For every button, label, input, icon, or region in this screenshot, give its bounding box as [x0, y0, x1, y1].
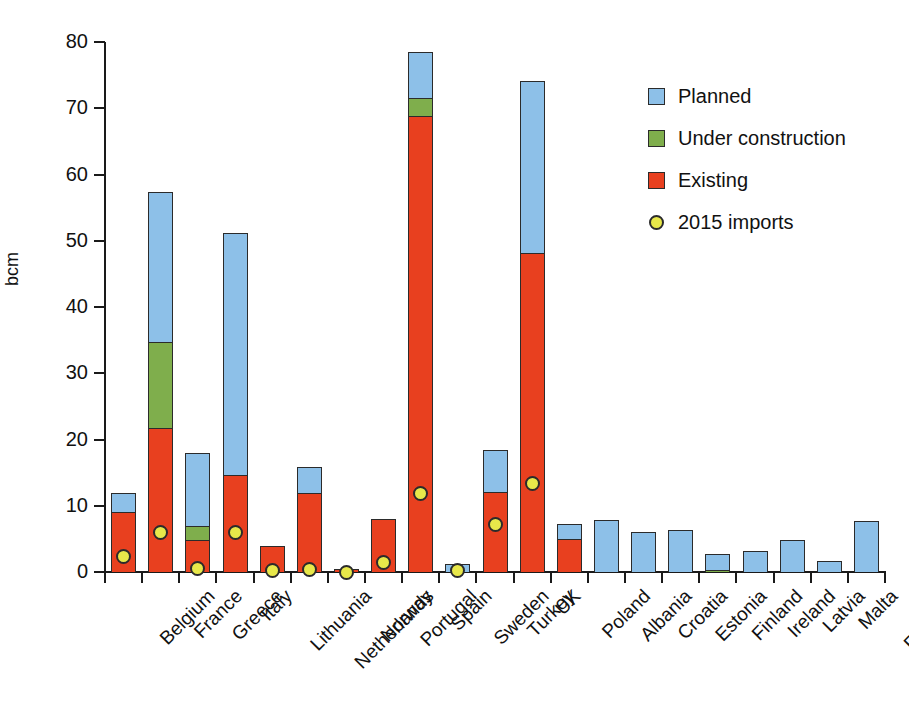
x-tick	[735, 573, 737, 583]
y-tick-label: 60	[0, 163, 88, 185]
bar-group[interactable]	[260, 42, 285, 572]
bar-segment[interactable]	[668, 530, 693, 572]
bar-group[interactable]	[371, 42, 396, 572]
x-tick	[327, 573, 329, 583]
bar-segment[interactable]	[705, 554, 730, 570]
import-marker[interactable]	[302, 562, 317, 577]
bar-segment[interactable]	[185, 453, 210, 526]
x-tick	[253, 573, 255, 583]
bar-segment[interactable]	[297, 493, 322, 572]
x-tick	[364, 573, 366, 583]
bar-segment[interactable]	[148, 192, 173, 342]
bar-segment[interactable]	[817, 561, 842, 572]
bar-group[interactable]	[334, 42, 359, 572]
legend-item[interactable]: 2015 imports	[648, 204, 846, 240]
bar-segment[interactable]	[483, 450, 508, 492]
bar-group[interactable]	[854, 42, 879, 572]
x-tick	[104, 573, 106, 583]
bar-group[interactable]	[483, 42, 508, 572]
bar-segment[interactable]	[148, 342, 173, 428]
x-tick	[810, 573, 812, 583]
y-tick-label: 20	[0, 428, 88, 450]
import-marker[interactable]	[488, 517, 503, 532]
bar-segment[interactable]	[111, 493, 136, 513]
legend-swatch-icon	[648, 172, 665, 189]
x-tick	[290, 573, 292, 583]
bar-group[interactable]	[111, 42, 136, 572]
bar-group[interactable]	[520, 42, 545, 572]
bar-segment[interactable]	[408, 98, 433, 116]
bar-segment[interactable]	[223, 475, 248, 572]
x-tick	[550, 573, 552, 583]
x-tick	[661, 573, 663, 583]
bar-segment[interactable]	[594, 520, 619, 572]
legend-label: Under construction	[678, 127, 846, 150]
y-tick-40	[94, 306, 105, 308]
bar-segment[interactable]	[223, 233, 248, 475]
x-tick	[884, 573, 886, 583]
y-tick-70	[94, 107, 105, 109]
legend-label: Existing	[678, 169, 748, 192]
y-tick-label: 40	[0, 295, 88, 317]
bar-segment[interactable]	[185, 526, 210, 539]
y-tick-label: 0	[0, 560, 88, 582]
bar-segment[interactable]	[705, 570, 730, 572]
bar-segment[interactable]	[408, 52, 433, 98]
x-tick	[475, 573, 477, 583]
bar-segment[interactable]	[631, 532, 656, 572]
legend-swatch-icon	[648, 130, 665, 147]
bar-group[interactable]	[445, 42, 470, 572]
legend-label: 2015 imports	[678, 211, 794, 234]
legend-item[interactable]: Under construction	[648, 120, 846, 156]
bar-segment[interactable]	[148, 428, 173, 572]
import-marker[interactable]	[450, 563, 465, 578]
bar-segment[interactable]	[743, 551, 768, 572]
bar-segment[interactable]	[780, 540, 805, 572]
import-marker[interactable]	[265, 563, 280, 578]
bar-segment[interactable]	[854, 521, 879, 572]
x-tick	[401, 573, 403, 583]
bar-segment[interactable]	[520, 253, 545, 572]
y-tick-label: 30	[0, 361, 88, 383]
x-axis-label-romania: Romania	[901, 586, 909, 653]
x-tick	[773, 573, 775, 583]
import-marker[interactable]	[339, 565, 354, 580]
x-tick	[438, 573, 440, 583]
y-axis-title: bcm	[2, 252, 23, 286]
y-tick-50	[94, 240, 105, 242]
legend-item[interactable]: Planned	[648, 78, 846, 114]
bar-segment[interactable]	[557, 524, 582, 539]
y-tick-20	[94, 439, 105, 441]
x-tick	[624, 573, 626, 583]
legend-label: Planned	[678, 85, 751, 108]
x-tick	[215, 573, 217, 583]
bar-group[interactable]	[185, 42, 210, 572]
chart-legend: PlannedUnder constructionExisting2015 im…	[648, 78, 846, 246]
x-tick	[178, 573, 180, 583]
import-marker[interactable]	[190, 561, 205, 576]
import-marker[interactable]	[413, 486, 428, 501]
bar-group[interactable]	[148, 42, 173, 572]
bar-segment[interactable]	[408, 116, 433, 572]
y-tick-label: 50	[0, 229, 88, 251]
y-tick-60	[94, 174, 105, 176]
y-tick-label: 70	[0, 96, 88, 118]
bar-group[interactable]	[557, 42, 582, 572]
y-tick-80	[94, 41, 105, 43]
x-tick	[698, 573, 700, 583]
legend-dot-icon	[649, 215, 664, 230]
bar-group[interactable]	[594, 42, 619, 572]
y-tick-label: 10	[0, 494, 88, 516]
legend-item[interactable]: Existing	[648, 162, 846, 198]
bar-group[interactable]	[223, 42, 248, 572]
x-tick	[141, 573, 143, 583]
bar-segment[interactable]	[297, 467, 322, 494]
y-tick-label: 80	[0, 30, 88, 52]
import-marker[interactable]	[525, 476, 540, 491]
import-marker[interactable]	[116, 549, 131, 564]
y-tick-30	[94, 372, 105, 374]
bar-group[interactable]	[297, 42, 322, 572]
import-marker[interactable]	[228, 525, 243, 540]
bar-segment[interactable]	[520, 81, 545, 253]
bar-segment[interactable]	[557, 539, 582, 572]
